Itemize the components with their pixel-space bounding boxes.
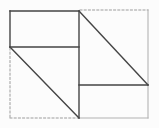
- geometry-figure: [0, 0, 159, 128]
- figure-svg: [0, 0, 159, 128]
- top-right-diagonal: [79, 11, 148, 85]
- bottom-left-diagonal: [10, 47, 79, 118]
